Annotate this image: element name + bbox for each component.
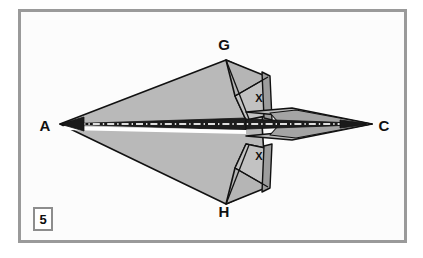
step-number-label: 5	[39, 213, 46, 226]
step-number-box: 5	[33, 207, 53, 231]
label-x-bottom: X	[255, 150, 263, 162]
label-h: H	[219, 203, 230, 220]
figure-root: A C G H X X 5	[0, 0, 423, 258]
label-c: C	[379, 117, 390, 134]
label-g: G	[218, 36, 230, 53]
label-a: A	[40, 117, 51, 134]
label-x-top: X	[255, 92, 263, 104]
origami-diagram: A C G H X X	[0, 0, 423, 258]
